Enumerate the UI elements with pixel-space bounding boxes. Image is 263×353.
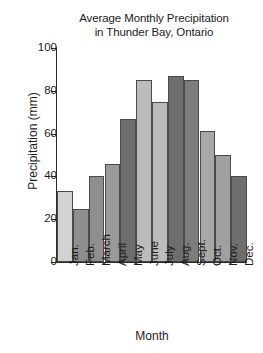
bar-aug <box>168 76 184 262</box>
x-label-feb: Feb. <box>85 243 97 266</box>
x-axis-labels: Jan.Feb.MarchAprilMayJuneJulyAug.Sept.Oc… <box>57 263 247 323</box>
y-axis-ticks: 020406080100 <box>0 0 57 353</box>
y-tick-label-80: 80 <box>11 85 57 97</box>
y-tick-label-40: 40 <box>11 170 57 182</box>
bar-may <box>120 119 136 262</box>
x-label-june: June <box>149 241 161 266</box>
bar-june <box>136 80 152 262</box>
x-label-oct: Oct. <box>212 245 224 266</box>
chart-title-line-1: Average Monthly Precipitation <box>50 11 258 25</box>
y-tick-label-100: 100 <box>11 42 57 54</box>
x-label-jan: Jan. <box>69 244 81 266</box>
x-label-april: April <box>117 243 129 266</box>
plot-area <box>57 48 247 262</box>
x-label-may: May <box>133 244 145 266</box>
x-label-march: March <box>101 234 113 266</box>
chart-title: Average Monthly Precipitation in Thunder… <box>50 11 258 39</box>
y-tick-label-60: 60 <box>11 128 57 140</box>
precipitation-bar-chart: Average Monthly Precipitation in Thunder… <box>0 0 263 353</box>
chart-title-line-2: in Thunder Bay, Ontario <box>50 25 258 39</box>
x-label-july: July <box>164 246 176 266</box>
x-label-sept: Sept. <box>196 239 208 266</box>
y-tick-label-0: 0 <box>11 256 57 268</box>
x-label-aug: Aug. <box>180 242 192 266</box>
y-tick-label-20: 20 <box>11 213 57 225</box>
x-label-nov: Nov. <box>228 243 240 266</box>
bar-july <box>152 102 168 263</box>
x-label-dec: Dec. <box>244 242 256 266</box>
bar-sept <box>184 80 200 262</box>
x-axis-title: Month <box>57 330 247 342</box>
